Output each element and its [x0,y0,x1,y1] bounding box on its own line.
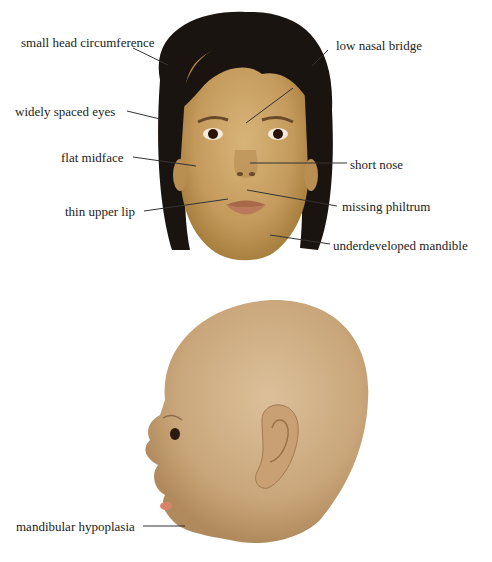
label-missing-philtrum: missing philtrum [342,199,430,214]
label-small-head-circumference: small head circumference [21,35,155,50]
label-underdeveloped-mandible: underdeveloped mandible [333,238,468,253]
label-widely-spaced-eyes: widely spaced eyes [15,104,115,119]
illustration [0,0,492,562]
label-mandibular-hypoplasia: mandibular hypoplasia [16,519,135,534]
label-short-nose: short nose [350,157,403,172]
label-thin-upper-lip: thin upper lip [65,204,135,219]
side-head-illustration [145,300,368,543]
front-face-illustration [158,12,333,260]
label-flat-midface: flat midface [61,150,123,165]
label-low-nasal-bridge: low nasal bridge [336,38,422,53]
side-head [145,300,368,543]
